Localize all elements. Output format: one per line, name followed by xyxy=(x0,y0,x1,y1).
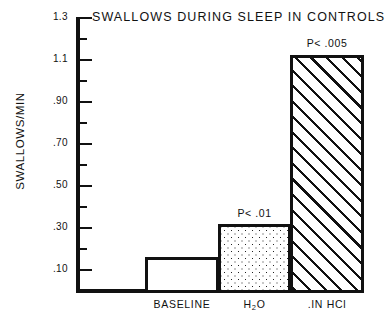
x-label-hcl: .IN HCl xyxy=(290,298,364,310)
pvalue-h2o: P< .01 xyxy=(218,207,291,219)
y-tick-major-1.3 xyxy=(80,17,92,19)
y-tick-major-0.10 xyxy=(80,269,92,271)
bar-hcl xyxy=(290,55,364,293)
y-tick-minor-0.80 xyxy=(80,122,87,124)
y-tick-major-0.70 xyxy=(80,143,92,145)
y-tick-major-0.90 xyxy=(80,101,92,103)
y-tick-minor-1.0 xyxy=(80,80,87,82)
bar-baseline xyxy=(145,257,219,293)
y-axis-title: SWALLOWS/MIN xyxy=(14,76,26,206)
y-tick-minor-0.20 xyxy=(80,248,87,250)
y-tick-label-0.50: .50 xyxy=(28,179,68,190)
x-label-h2o-h: H xyxy=(243,298,251,310)
y-tick-minor-1.2 xyxy=(80,38,87,40)
y-tick-label-1.3: 1.3 xyxy=(28,11,68,22)
y-tick-label-0.90: .90 xyxy=(28,95,68,106)
y-tick-label-0.30: .30 xyxy=(28,221,68,232)
y-tick-minor-0.60 xyxy=(80,164,87,166)
chart-title: SWALLOWS DURING SLEEP IN CONTROLS xyxy=(92,10,385,24)
y-tick-major-0.30 xyxy=(80,227,92,229)
y-tick-label-1.1: 1.1 xyxy=(28,53,68,64)
x-label-h2o-sub: 2 xyxy=(252,303,257,312)
y-tick-label-0.10: .10 xyxy=(28,263,68,274)
y-tick-minor-0.40 xyxy=(80,206,87,208)
pvalue-hcl: P< .005 xyxy=(290,37,364,49)
y-tick-label-0.70: .70 xyxy=(28,137,68,148)
x-label-h2o: H2O xyxy=(218,298,291,310)
x-label-baseline: BASELINE xyxy=(145,298,219,310)
y-tick-major-0.50 xyxy=(80,185,92,187)
y-tick-major-1.1 xyxy=(80,59,92,61)
bar-h2o xyxy=(218,224,291,293)
x-label-h2o-o: O xyxy=(257,298,266,310)
